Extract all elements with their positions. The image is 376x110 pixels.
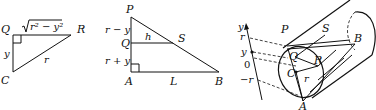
diagram-svg: Q R C y r r² − y² P Q A B S r − y r + y … [0,0,376,110]
hypotenuse-pb [131,17,219,72]
label-c: C [1,74,10,87]
right-angle-marker [13,35,21,43]
label-r-plus-y: r + y [105,55,131,66]
label-a: A [298,100,307,110]
label-top-side: r² − y² [30,21,63,32]
label-radius-r: r [304,73,310,84]
label-h: h [145,31,151,42]
right-angle-marker [131,64,139,72]
label-b: B [353,32,362,45]
hypotenuse-cr [13,35,71,72]
label-r: R [313,54,322,67]
label-r-minus-y: r − y [105,24,131,35]
tick-label-neg-r: −r [240,74,254,85]
dash-line-neg-r [258,80,300,96]
panel-triangle-pab: P Q A B S r − y r + y h L [105,3,223,88]
panel-cylinder-wedge: y r y 0 −r P S B Q R [237,0,375,110]
axis-arrow-icon [244,23,249,30]
dash-line-r [250,38,286,46]
tick-label-zero: 0 [244,59,250,70]
label-q: Q [121,37,130,50]
label-side-y: y [3,48,10,59]
label-p: P [280,23,289,36]
label-r: R [76,23,85,36]
tick-label-r: r [240,31,246,42]
label-hypotenuse-r: r [44,54,50,65]
label-a: A [124,75,133,88]
label-s: S [322,22,330,35]
label-q: Q [289,50,298,63]
figure-canvas: Q R C y r r² − y² P Q A B S r − y r + y … [0,0,376,110]
label-b: B [214,75,223,88]
tick-label-y: y [240,46,247,57]
panel-triangle-qcr: Q R C y r r² − y² [1,20,85,87]
label-q: Q [1,23,10,36]
label-l: L [169,75,177,88]
label-p: P [125,3,134,16]
label-c: C [287,67,296,80]
label-s: S [178,32,186,45]
